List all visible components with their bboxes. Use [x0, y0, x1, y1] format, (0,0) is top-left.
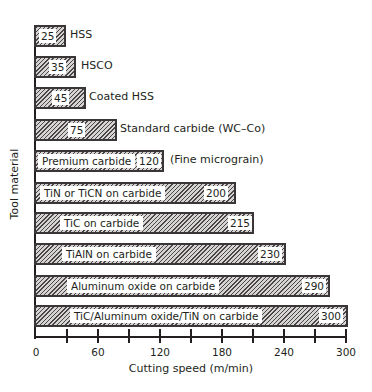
- bar-value: 290: [302, 279, 326, 293]
- bar-value: 215: [228, 216, 252, 230]
- bar-label: TiC/Aluminum oxide/TiN on carbide: [70, 309, 262, 323]
- bar-value: 120: [137, 154, 161, 168]
- x-tick: [283, 329, 285, 343]
- bar-label: HSCO: [81, 59, 113, 73]
- cutting-speed-chart: Tool material 25 HSS 35 HSCO 45 Coated H…: [0, 0, 372, 392]
- x-tick: [314, 329, 316, 343]
- x-tick-label: 300: [336, 346, 356, 358]
- bar-value: 75: [68, 123, 85, 137]
- bar-value: 45: [52, 91, 69, 105]
- bar-tin-ticn: TiN or TiCN on carbide 200: [34, 182, 236, 204]
- bar-coated-hss: 45: [34, 87, 86, 109]
- bar-label: TiC on carbide: [60, 216, 143, 230]
- bar-value: 230: [258, 247, 282, 261]
- bar-label: Standard carbide (WC–Co): [120, 122, 265, 136]
- x-tick: [252, 329, 254, 343]
- bar-label: Aluminum oxide on carbide: [67, 279, 219, 293]
- bar-tic: TiC on carbide 215: [34, 212, 254, 234]
- bar-value: 25: [39, 29, 56, 43]
- bar-tialn: TiAlN on carbide 230: [34, 243, 286, 265]
- bar-hsco: 35: [34, 56, 76, 78]
- x-tick: [221, 329, 223, 343]
- x-tick-label: 0: [33, 346, 40, 358]
- bar-value: 200: [204, 186, 228, 200]
- x-tick-label: 240: [274, 346, 294, 358]
- bar-hss: 25: [34, 25, 66, 47]
- bar-label: TiN or TiCN on carbide: [40, 186, 165, 200]
- bar-value: 35: [49, 60, 66, 74]
- x-tick: [66, 329, 68, 343]
- y-axis-title: Tool material: [8, 149, 21, 220]
- bar-tic-alox-tin: TiC/Aluminum oxide/TiN on carbide 300: [34, 305, 348, 327]
- x-tick: [345, 329, 347, 343]
- bar-aluminum-oxide: Aluminum oxide on carbide 290: [34, 275, 330, 297]
- x-tick: [159, 329, 161, 343]
- x-axis-title: Cutting speed (m/min): [129, 362, 253, 375]
- x-tick-label: 120: [150, 346, 170, 358]
- bar-value: 300: [319, 309, 343, 323]
- bar-standard-carbide: 75: [34, 119, 117, 141]
- bar-label: TiAlN on carbide: [62, 247, 156, 261]
- x-tick-label: 180: [212, 346, 232, 358]
- bar-premium-carbide: Premium carbide 120: [34, 150, 164, 172]
- x-tick: [128, 329, 130, 343]
- bar-label: HSS: [70, 28, 92, 42]
- bar-label: Coated HSS: [89, 90, 154, 104]
- bar-label: Premium carbide: [38, 154, 135, 168]
- x-tick: [97, 329, 99, 343]
- x-tick-label: 60: [91, 346, 104, 358]
- x-tick: [190, 329, 192, 343]
- bar-annotation: (Fine micrograin): [170, 153, 264, 167]
